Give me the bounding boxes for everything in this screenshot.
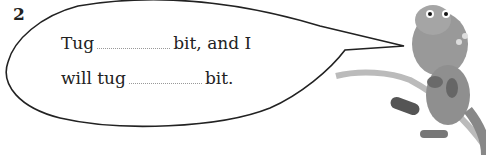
dinosaur-illustration xyxy=(336,5,486,155)
blank-1[interactable] xyxy=(97,47,170,49)
blank-2[interactable] xyxy=(129,82,202,84)
text-bit-and-i: bit, and I xyxy=(173,33,251,53)
sentence-line-2: will tugbit. xyxy=(61,68,234,88)
text-bit: bit. xyxy=(205,68,234,88)
worksheet-exercise: 2 Tugbit, and I will tugbit. xyxy=(0,0,486,161)
text-tug: Tug xyxy=(61,33,94,53)
sentence-line-1: Tugbit, and I xyxy=(61,33,251,53)
text-will-tug: will tug xyxy=(61,68,126,88)
